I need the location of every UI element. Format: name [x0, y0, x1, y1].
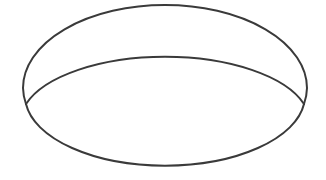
front-bottom-arc [26, 104, 304, 166]
outer-rim-arc [23, 5, 307, 104]
diagram-canvas [0, 0, 326, 180]
inner-back-arc [26, 57, 304, 104]
dish-diagram [0, 0, 326, 180]
